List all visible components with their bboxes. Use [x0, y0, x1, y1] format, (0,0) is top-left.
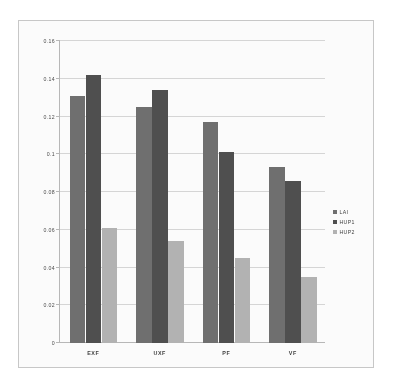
bar[interactable] — [203, 122, 219, 343]
y-axis-tick-label: 0.16 — [44, 38, 56, 44]
x-axis-tick-label: UXF — [154, 350, 166, 356]
legend-item[interactable]: HUP1 — [333, 217, 373, 226]
bar-group — [127, 41, 194, 343]
bar[interactable] — [235, 258, 251, 343]
legend-item-label: LAI — [340, 209, 349, 215]
legend-swatch-icon — [333, 220, 337, 224]
bar-group — [193, 41, 260, 343]
legend-item[interactable]: HUP2 — [333, 227, 373, 236]
bar[interactable] — [86, 75, 102, 343]
bar[interactable] — [285, 181, 301, 343]
y-axis-tick-label: 0.08 — [44, 189, 56, 195]
chart-figure-frame: 00.020.040.060.080.10.120.140.16 EXFUXFP… — [18, 20, 374, 368]
y-axis-tick-label: 0 — [52, 340, 55, 346]
y-axis-tick-label: 0.06 — [44, 227, 56, 233]
x-axis-tick-label: PF — [222, 350, 230, 356]
bar[interactable] — [102, 228, 118, 343]
plot-area: 00.020.040.060.080.10.120.140.16 EXFUXFP… — [59, 41, 325, 343]
legend-swatch-icon — [333, 210, 337, 214]
bar[interactable] — [301, 277, 317, 343]
bar[interactable] — [168, 241, 184, 343]
y-axis-tick-label: 0.1 — [47, 151, 55, 157]
y-axis-tick-label: 0.14 — [44, 76, 56, 82]
legend-item-label: HUP2 — [340, 229, 355, 235]
y-axis-tick-label: 0.12 — [44, 114, 56, 120]
legend-swatch-icon — [333, 230, 337, 234]
bar[interactable] — [152, 90, 168, 343]
bar[interactable] — [136, 107, 152, 343]
legend-item-label: HUP1 — [340, 219, 355, 225]
bar-group — [260, 41, 327, 343]
y-axis-tick-label: 0.04 — [44, 265, 56, 271]
x-axis-tick-label: EXF — [87, 350, 99, 356]
bar-group — [60, 41, 127, 343]
legend-item[interactable]: LAI — [333, 207, 373, 216]
bar[interactable] — [219, 152, 235, 343]
chart-legend: LAIHUP1HUP2 — [333, 207, 373, 237]
bar[interactable] — [269, 167, 285, 343]
x-axis-tick-label: VF — [289, 350, 297, 356]
bar[interactable] — [70, 96, 86, 343]
y-axis-tick-label: 0.02 — [44, 302, 56, 308]
